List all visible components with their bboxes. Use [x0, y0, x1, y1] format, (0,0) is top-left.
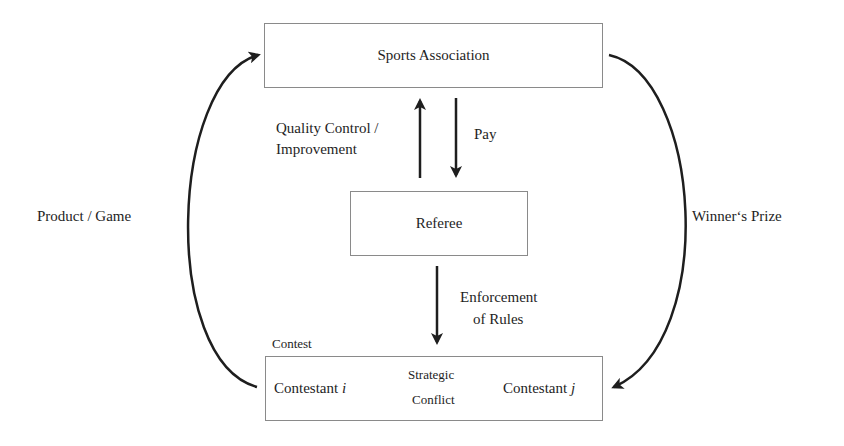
product-game-arrow [188, 55, 258, 387]
winners-prize-arrow [609, 55, 686, 387]
quality-control-label-1: Quality Control / [276, 119, 379, 137]
contest-caption: Contest [272, 335, 312, 353]
contestant-i-label: Contestant i [274, 379, 346, 397]
pay-label: Pay [474, 125, 497, 143]
conflict-label: Conflict [412, 391, 455, 409]
product-game-label: Product / Game [37, 207, 131, 225]
sports-association-box: Sports Association [264, 23, 603, 88]
quality-control-label-2: Improvement [276, 140, 357, 158]
contestant-j-label: Contestant j [503, 379, 575, 397]
sports-association-label: Sports Association [377, 47, 489, 64]
enforcement-label-2: of Rules [473, 310, 523, 328]
strategic-label: Strategic [408, 366, 454, 384]
enforcement-label-1: Enforcement [460, 288, 537, 306]
referee-box: Referee [350, 191, 528, 256]
winners-prize-label: Winner‘s Prize [692, 207, 782, 225]
referee-label: Referee [416, 215, 463, 232]
